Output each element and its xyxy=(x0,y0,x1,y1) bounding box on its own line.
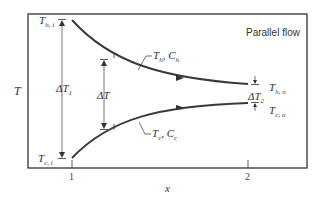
hot-inlet-label: Th, i xyxy=(39,15,54,29)
cold-outlet-label: Tc, o xyxy=(269,105,285,119)
y-axis-label: T xyxy=(14,85,21,97)
x-tick-label-2: 2 xyxy=(245,171,250,182)
delta-t1-label: ΔT1 xyxy=(56,83,72,97)
x-tick-label-1: 1 xyxy=(69,171,74,182)
diagram-title: Parallel flow xyxy=(246,27,300,38)
delta-t-label: ΔT xyxy=(97,90,110,101)
delta-t2-label: ΔT2 xyxy=(248,91,264,105)
hot-stream-label: Th, Ch xyxy=(153,50,179,64)
cold-inlet-label: Tc, i xyxy=(38,153,53,167)
hot-outlet-label: Th, o xyxy=(269,82,286,96)
x-axis-label: x xyxy=(165,183,170,194)
cold-stream-label: Tc, Cc xyxy=(152,128,177,142)
